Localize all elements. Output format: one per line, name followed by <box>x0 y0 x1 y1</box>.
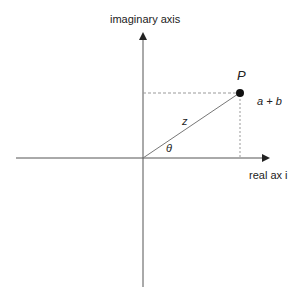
complex-plane-diagram <box>0 0 301 300</box>
imaginary-axis-label: imaginary axis <box>110 13 180 25</box>
point-p <box>236 89 244 97</box>
point-label: P <box>237 68 246 83</box>
real-axis-label: real ax i <box>249 169 288 181</box>
angle-label: θ <box>166 142 172 154</box>
point-value-label: a + b <box>257 95 282 107</box>
vector-z <box>143 94 238 158</box>
vector-label: z <box>182 115 188 127</box>
